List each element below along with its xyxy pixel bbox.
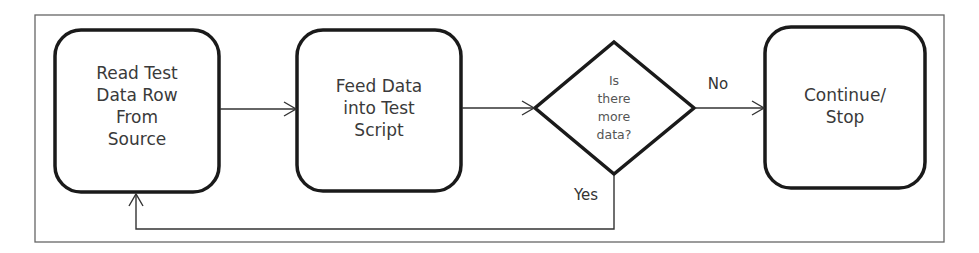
node-decision-line: Is [574, 72, 654, 90]
node-end-line: Continue/ [765, 84, 925, 106]
edge-label-no: No [703, 75, 733, 95]
node-read-line: Data Row [55, 84, 219, 106]
node-decision-label: Is there more data? [574, 72, 654, 145]
node-decision-line: data? [574, 126, 654, 144]
edge-label-yes: Yes [566, 186, 606, 206]
node-decision-line: more [574, 108, 654, 126]
node-end-label: Continue/ Stop [765, 84, 925, 128]
node-feed-line: Script [297, 119, 461, 141]
node-feed-line: into Test [297, 97, 461, 119]
node-decision-line: there [574, 90, 654, 108]
node-feed-line: Feed Data [297, 75, 461, 97]
node-feed-label: Feed Data into Test Script [297, 75, 461, 141]
node-read-line: From [55, 106, 219, 128]
node-end-line: Stop [765, 106, 925, 128]
node-read-label: Read Test Data Row From Source [55, 62, 219, 150]
node-read-line: Read Test [55, 62, 219, 84]
node-read-line: Source [55, 128, 219, 150]
